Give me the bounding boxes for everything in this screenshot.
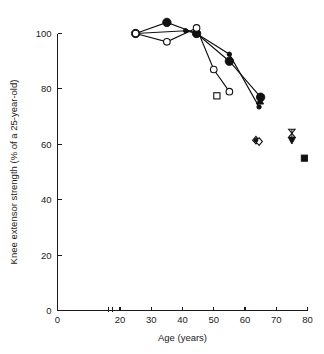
- data-point-s1-p3: [227, 52, 231, 56]
- y-axis-title: Knee extensor strength (% of a 25-year-o…: [8, 80, 19, 265]
- y-tick-label-100: 100: [36, 28, 52, 39]
- data-point-s0-p1: [163, 18, 171, 26]
- y-tick-label-40: 40: [41, 194, 52, 205]
- diamond-cluster-inner-dot: [254, 138, 258, 142]
- data-point-s2-p2: [193, 25, 200, 32]
- data-point-s0-p3: [225, 57, 233, 65]
- data-point-s2-p0: [132, 30, 139, 37]
- x-tick-label-40: 40: [177, 314, 188, 325]
- x-tick-label-60: 60: [240, 314, 251, 325]
- knee-extensor-strength-scatter-chart: 020406080100 020304050607080 Age (years)…: [0, 0, 324, 354]
- x-tick-label-20: 20: [115, 314, 126, 325]
- x-tick-label-0: 0: [55, 314, 60, 325]
- figure-container: 020406080100 020304050607080 Age (years)…: [0, 0, 324, 354]
- data-point-s1-p2: [194, 31, 198, 35]
- axes-group: [58, 34, 308, 312]
- y-tick-label-20: 20: [41, 250, 52, 261]
- y-tick-label-60: 60: [41, 139, 52, 150]
- data-point-s8-p0: [301, 155, 307, 161]
- data-point-s2-p1: [164, 39, 171, 46]
- y-axis-tick-labels: 020406080100: [36, 28, 52, 316]
- series-line-1: [136, 31, 259, 107]
- data-point-s4-p0: [214, 93, 220, 99]
- x-axis-title: Age (years): [158, 332, 207, 343]
- data-point-s1-p4: [257, 105, 261, 109]
- x-axis-tick-labels: 020304050607080: [55, 314, 313, 325]
- x-tick-label-30: 30: [146, 314, 157, 325]
- data-point-s2-p3: [210, 66, 217, 73]
- y-tick-label-0: 0: [46, 305, 51, 316]
- series-line-2: [136, 28, 230, 92]
- y-axis-ticks: [58, 34, 62, 311]
- data-point-s7-p0: [288, 137, 295, 144]
- data-point-s1-p1: [183, 29, 187, 33]
- x-axis-ticks: [120, 307, 308, 311]
- data-point-s2-p4: [226, 88, 233, 95]
- y-tick-label-80: 80: [41, 83, 52, 94]
- x-tick-label-70: 70: [271, 314, 282, 325]
- x-tick-label-50: 50: [208, 314, 219, 325]
- x-tick-label-80: 80: [302, 314, 313, 325]
